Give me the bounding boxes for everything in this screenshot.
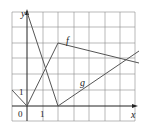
f-label: f — [66, 35, 70, 46]
graph-canvas: y x 0 1 1 f g — [0, 0, 142, 130]
g-label: g — [80, 77, 85, 88]
y-tick-one-label: 1 — [19, 87, 24, 97]
x-tick-one-label: 1 — [40, 109, 45, 119]
x-axis-label: x — [130, 109, 136, 120]
origin-label: 0 — [18, 109, 23, 119]
y-axis-label: y — [20, 8, 26, 19]
